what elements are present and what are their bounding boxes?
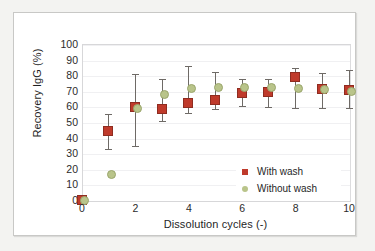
gridline bbox=[83, 139, 350, 140]
data-point-circle bbox=[347, 87, 356, 96]
error-bar-cap bbox=[212, 109, 219, 110]
data-point-circle bbox=[133, 104, 142, 113]
gridline bbox=[83, 76, 350, 77]
data-point-square bbox=[183, 98, 193, 108]
data-point-circle bbox=[187, 84, 196, 93]
error-bar-cap bbox=[265, 107, 272, 108]
gridline bbox=[83, 154, 350, 155]
legend-label: Without wash bbox=[257, 181, 317, 197]
y-tick-label: 30 bbox=[52, 148, 78, 158]
x-axis-tick-labels: 0246810 bbox=[82, 202, 349, 218]
y-tick-label: 70 bbox=[52, 86, 78, 96]
data-point-circle bbox=[240, 83, 249, 92]
x-tick-label: 6 bbox=[230, 202, 254, 214]
circle-marker-icon bbox=[242, 186, 248, 192]
y-tick-label: 40 bbox=[52, 133, 78, 143]
x-axis-title: Dissolution cycles (-) bbox=[82, 218, 349, 230]
error-bar-cap bbox=[212, 72, 219, 73]
square-marker-icon bbox=[242, 169, 248, 175]
data-point-circle bbox=[160, 90, 169, 99]
data-point-square bbox=[103, 126, 113, 136]
x-tick-label: 0 bbox=[70, 202, 94, 214]
chart-legend: With washWithout wash bbox=[236, 160, 341, 198]
error-bar-cap bbox=[292, 68, 299, 69]
error-bar-cap bbox=[239, 106, 246, 107]
plot-area: With washWithout wash bbox=[82, 44, 351, 202]
gridline bbox=[83, 45, 350, 46]
data-point-square bbox=[210, 95, 220, 105]
error-bar bbox=[162, 79, 163, 123]
data-point-square bbox=[290, 72, 300, 82]
error-bar-cap bbox=[319, 73, 326, 74]
gridline bbox=[83, 92, 350, 93]
legend-label: With wash bbox=[257, 164, 303, 180]
chart-card: 1009080706050403020100 Recovery IgG (%) … bbox=[13, 12, 356, 236]
x-tick-label: 8 bbox=[284, 202, 308, 214]
error-bar-cap bbox=[346, 70, 353, 71]
y-tick-label: 60 bbox=[52, 101, 78, 111]
error-bar-cap bbox=[159, 79, 166, 80]
error-bar-cap bbox=[265, 79, 272, 80]
data-point-circle bbox=[214, 83, 223, 92]
error-bar-cap bbox=[132, 74, 139, 75]
error-bar-cap bbox=[159, 121, 166, 122]
y-tick-label: 20 bbox=[52, 164, 78, 174]
y-tick-label: 10 bbox=[52, 179, 78, 189]
y-tick-label: 80 bbox=[52, 70, 78, 80]
gridline bbox=[83, 61, 350, 62]
y-tick-label: 90 bbox=[52, 55, 78, 65]
error-bar-cap bbox=[239, 79, 246, 80]
y-tick-label: 50 bbox=[52, 117, 78, 127]
error-bar-cap bbox=[132, 146, 139, 147]
error-bar-cap bbox=[319, 108, 326, 109]
data-point-circle bbox=[107, 170, 116, 179]
y-axis-title: Recovery IgG (%) bbox=[31, 28, 43, 158]
error-bar-cap bbox=[105, 149, 112, 150]
x-tick-label: 2 bbox=[123, 202, 147, 214]
error-bar-cap bbox=[185, 66, 192, 67]
gridline bbox=[83, 123, 350, 124]
y-axis-tick-labels: 1009080706050403020100 bbox=[50, 44, 78, 200]
error-bar-cap bbox=[105, 114, 112, 115]
figure-canvas: 1009080706050403020100 Recovery IgG (%) … bbox=[0, 0, 375, 251]
error-bar-cap bbox=[346, 108, 353, 109]
error-bar-cap bbox=[292, 108, 299, 109]
data-point-square bbox=[157, 104, 167, 114]
x-tick-label: 10 bbox=[337, 202, 361, 214]
y-tick-label: 100 bbox=[52, 39, 78, 49]
error-bar-cap bbox=[185, 113, 192, 114]
x-tick-label: 4 bbox=[177, 202, 201, 214]
